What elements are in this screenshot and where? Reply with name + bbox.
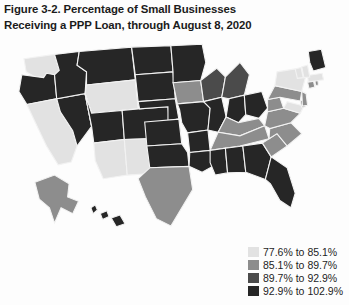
- state-ok: Oklahoma: [147, 144, 189, 168]
- legend-swatch: [248, 273, 259, 283]
- state-mn: Minnesota: [171, 44, 206, 83]
- state-sd: South Dakota: [135, 72, 175, 102]
- state-ms: Mississippi: [210, 148, 227, 175]
- state-ks: Kansas: [145, 119, 182, 146]
- state-hi: Hawaii: [111, 215, 125, 227]
- state-ma: Massachusetts: [308, 73, 324, 82]
- state-mi: Michigan: [222, 62, 250, 98]
- map-legend: 77.6% to 85.1%85.1% to 89.7%89.7% to 92.…: [248, 246, 343, 297]
- us-states-map: WashingtonOregonCaliforniaNevadaIdahoMon…: [0, 26, 349, 266]
- figure-title-line-1: Figure 3-2. Percentage of Small Business…: [4, 2, 304, 18]
- choropleth-map: WashingtonOregonCaliforniaNevadaIdahoMon…: [0, 26, 349, 266]
- state-hi: Hawaii: [91, 205, 98, 214]
- state-ia: Iowa: [173, 81, 204, 104]
- legend-label: 92.9% to 102.9%: [263, 285, 343, 297]
- state-wy: Wyoming: [85, 80, 138, 113]
- figure-container: Figure 3-2. Percentage of Small Business…: [0, 0, 349, 305]
- legend-label: 89.7% to 92.9%: [263, 272, 337, 284]
- legend-swatch: [248, 286, 259, 296]
- legend-item: 85.1% to 89.7%: [248, 259, 343, 271]
- legend-label: 85.1% to 89.7%: [263, 259, 337, 271]
- legend-item: 77.6% to 85.1%: [248, 246, 343, 258]
- state-me: Maine: [308, 49, 325, 71]
- legend-swatch: [248, 260, 259, 270]
- state-tx: Texas: [138, 166, 193, 226]
- legend-label: 77.6% to 85.1%: [263, 246, 337, 258]
- state-fl: Florida: [265, 157, 295, 208]
- state-ak: Alaska: [35, 175, 79, 223]
- state-az: Arizona: [94, 139, 127, 178]
- state-oh: Ohio: [244, 91, 267, 118]
- state-al: Alabama: [225, 146, 245, 173]
- state-mo: Missouri: [177, 102, 210, 133]
- state-nd: North Dakota: [132, 46, 173, 75]
- legend-swatch: [248, 247, 259, 257]
- legend-item: 92.9% to 102.9%: [248, 285, 343, 297]
- state-hi: Hawaii: [100, 211, 109, 220]
- legend-item: 89.7% to 92.9%: [248, 272, 343, 284]
- state-nj: New Jersey: [302, 91, 308, 106]
- state-ar: Arkansas: [188, 130, 211, 153]
